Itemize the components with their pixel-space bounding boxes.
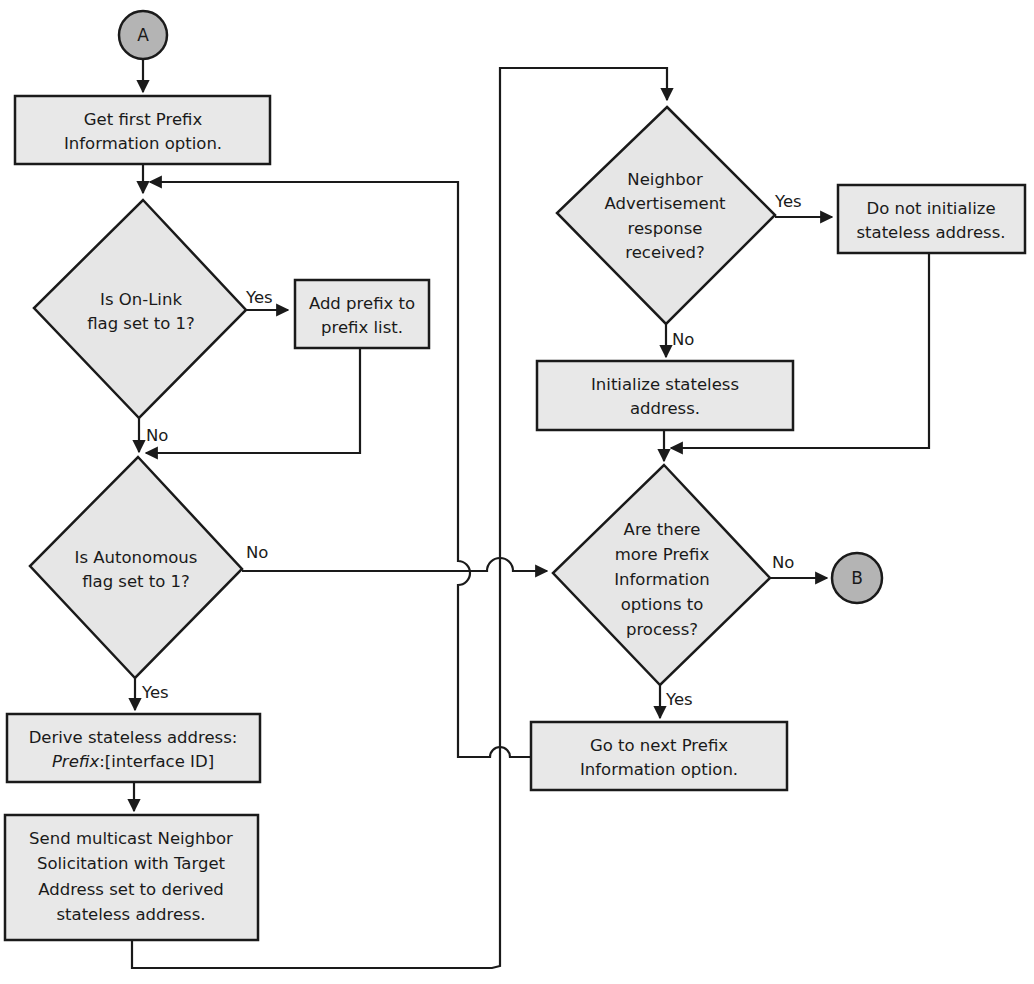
svg-text:Prefix:[interface ID]: Prefix:[interface ID] <box>52 752 214 771</box>
process-get-first-prefix: Get first Prefix Information option. <box>15 96 270 164</box>
svg-text:Go to next Prefix: Go to next Prefix <box>590 736 728 755</box>
process-derive-address: Derive stateless address: Prefix:[interf… <box>7 714 260 782</box>
svg-text:more Prefix: more Prefix <box>615 545 710 564</box>
svg-text:address.: address. <box>630 399 700 418</box>
edge-label-na-yes: Yes <box>774 192 802 211</box>
edge-label-autonomous-no: No <box>246 543 268 562</box>
edge-autonomous-no <box>242 558 547 571</box>
svg-text:Initialize stateless: Initialize stateless <box>591 375 739 394</box>
svg-text:stateless address.: stateless address. <box>56 905 205 924</box>
edge-label-more-yes: Yes <box>665 690 693 709</box>
svg-text:Neighbor: Neighbor <box>627 170 703 189</box>
start-connector-a: A <box>119 11 167 59</box>
svg-text:Are there: Are there <box>624 520 701 539</box>
svg-text:received?: received? <box>625 243 705 262</box>
decision-autonomous-flag: Is Autonomous flag set to 1? <box>30 457 242 678</box>
svg-text:Advertisement: Advertisement <box>604 194 726 213</box>
svg-text:Is On-Link: Is On-Link <box>100 290 182 309</box>
edge-label-onlink-no: No <box>146 426 168 445</box>
svg-text:prefix list.: prefix list. <box>321 318 403 337</box>
decision-on-link-flag: Is On-Link flag set to 1? <box>34 200 246 418</box>
svg-text:Do not initialize: Do not initialize <box>866 199 995 218</box>
svg-text:Is Autonomous: Is Autonomous <box>75 548 198 567</box>
process-initialize-address: Initialize stateless address. <box>537 361 793 430</box>
flowchart: A Get first Prefix Information option. I… <box>0 0 1034 984</box>
svg-text:options to: options to <box>621 595 704 614</box>
svg-text:Send multicast Neighbor: Send multicast Neighbor <box>29 829 233 848</box>
process-send-neighbor-solicitation: Send multicast Neighbor Solicitation wit… <box>5 815 258 940</box>
svg-text:flag set to 1?: flag set to 1? <box>87 314 195 333</box>
svg-text:Derive stateless address:: Derive stateless address: <box>29 728 238 747</box>
edge-label-onlink-yes: Yes <box>245 288 273 307</box>
connector-b-label: B <box>851 568 863 588</box>
connector-a-label: A <box>137 25 149 45</box>
svg-text:stateless address.: stateless address. <box>856 223 1005 242</box>
decision-neighbor-advertisement: Neighbor Advertisement response received… <box>557 107 775 324</box>
svg-text:Solicitation with Target: Solicitation with Target <box>37 854 226 873</box>
svg-text:response: response <box>628 219 703 238</box>
svg-text:Information option.: Information option. <box>580 760 738 779</box>
svg-text:Information option.: Information option. <box>64 134 222 153</box>
end-connector-b: B <box>832 553 882 603</box>
process-go-to-next-option: Go to next Prefix Information option. <box>531 722 787 790</box>
svg-text:Information: Information <box>614 570 710 589</box>
edge-label-more-no: No <box>772 553 794 572</box>
svg-text:Add prefix to: Add prefix to <box>309 294 415 313</box>
svg-text:flag set to 1?: flag set to 1? <box>82 572 190 591</box>
process-do-not-initialize: Do not initialize stateless address. <box>838 185 1025 253</box>
edge-label-na-no: No <box>672 330 694 349</box>
svg-text:Address set to derived: Address set to derived <box>38 880 224 899</box>
edge-label-autonomous-yes: Yes <box>141 683 169 702</box>
svg-text:Get first Prefix: Get first Prefix <box>84 110 203 129</box>
svg-text:process?: process? <box>626 620 698 639</box>
process-add-prefix: Add prefix to prefix list. <box>295 280 429 348</box>
decision-more-prefix-options: Are there more Prefix Information option… <box>553 465 770 685</box>
